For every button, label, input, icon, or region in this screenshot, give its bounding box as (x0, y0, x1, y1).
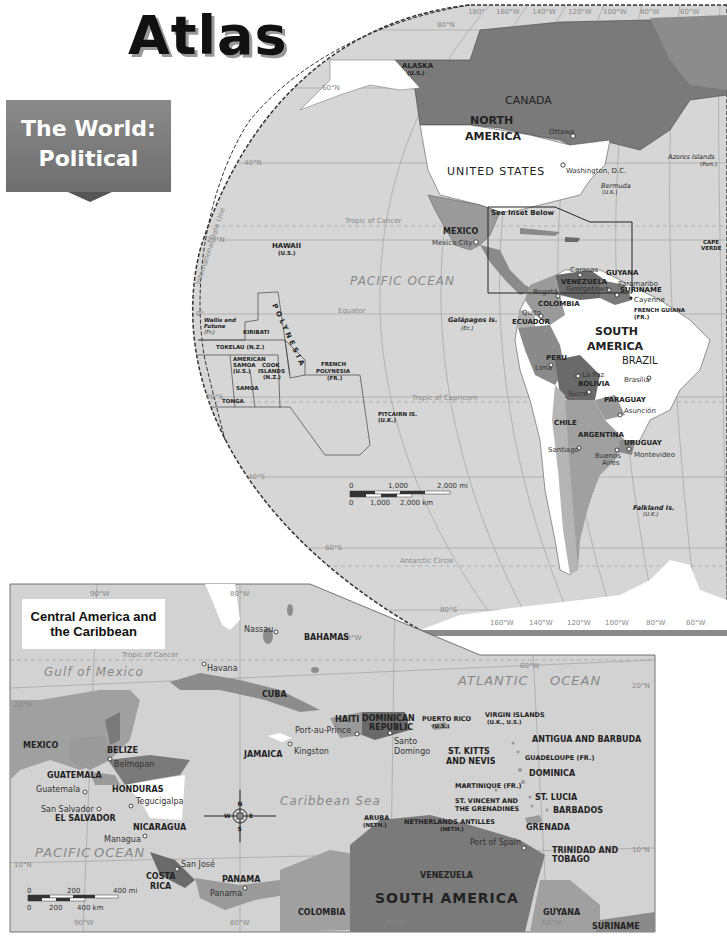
venezuela-inset-shape (350, 815, 545, 932)
svg-text:Havana: Havana (207, 664, 238, 673)
svg-text:San Salvador: San Salvador (41, 805, 94, 814)
svg-text:Tegucigalpa: Tegucigalpa (135, 797, 184, 806)
svg-text:400 km: 400 km (77, 904, 104, 912)
inset-country-labels: MEXICO BELIZE GUATEMALA HONDURAS EL SALV… (23, 633, 642, 931)
inset-lat-label: 10°N (632, 846, 650, 854)
lon-label-bottom: 100°W (605, 619, 629, 627)
lon-label: 100°W (603, 8, 627, 16)
inset-lat-label: 10°N (14, 861, 32, 869)
svg-text:E: E (249, 812, 253, 819)
svg-text:Guatemala: Guatemala (36, 785, 80, 794)
mexico-inset-shape (10, 690, 140, 780)
wallis-sub: (Fr.) (204, 329, 215, 335)
svg-text:1,000: 1,000 (388, 482, 408, 490)
inset-pacific-label: PACIFIC (35, 845, 91, 860)
french-polynesia-sub: (FR.) (327, 375, 343, 381)
north-america-label: AMERICA (465, 130, 522, 143)
lat-label: 20°S (206, 393, 223, 401)
hawaii-label: HAWAII (272, 242, 301, 250)
mexico-city-label: Mexico City (432, 239, 472, 247)
costa-rica-shape (150, 852, 195, 888)
inset-scale-bar: 0 200 400 mi 0 200 400 km (27, 887, 137, 912)
inset-lon-label: 60°W (520, 662, 539, 670)
inset-title-line-2: the Caribbean (22, 624, 165, 639)
inset-tropic-label: Tropic of Cancer (121, 651, 178, 659)
svg-text:COSTA: COSTA (146, 872, 176, 881)
la-paz-label: La Paz (582, 371, 605, 379)
lon-label: 120°W (568, 8, 592, 16)
svg-text:S: S (238, 825, 242, 832)
gulf-of-mexico-label: Gulf of Mexico (44, 665, 144, 679)
nicaragua-shape (125, 775, 185, 820)
montevideo-label: Montevideo (634, 451, 675, 459)
atlantic-label: ATLANTIC (457, 673, 529, 688)
svg-text:0: 0 (27, 887, 31, 895)
galapagos-sub: (Ec.) (461, 325, 474, 331)
brazil-label: BRAZIL (622, 355, 658, 366)
guatemala-shape (70, 735, 110, 770)
atlantic-label: OCEAN (550, 673, 601, 688)
argentina-label: ARGENTINA (578, 431, 624, 439)
asuncion-label: Asunción (624, 407, 656, 415)
world-map: 180° 160°W 140°W 120°W 100°W 80°W 60°W 8… (0, 0, 727, 640)
paraguay-label: PARAGUAY (604, 396, 647, 404)
svg-text:MEXICO: MEXICO (23, 741, 58, 750)
svg-text:DOMINICA: DOMINICA (529, 769, 576, 778)
tropic-capricorn-label: Tropic of Capricorn (411, 394, 477, 402)
santiago-label: Santiago (548, 446, 579, 454)
svg-text:PUERTO RICO: PUERTO RICO (422, 715, 472, 723)
brasilia-label: Brasília (624, 376, 650, 384)
svg-text:W: W (224, 812, 231, 819)
svg-text:TRINIDAD AND: TRINIDAD AND (552, 846, 618, 855)
svg-text:Domingo: Domingo (394, 747, 430, 756)
svg-text:EL SALVADOR: EL SALVADOR (55, 814, 116, 823)
dominican-shape (362, 712, 410, 740)
svg-text:(U.S.): (U.S.) (432, 723, 450, 729)
svg-text:DOMINICAN: DOMINICAN (362, 714, 415, 723)
american-samoa-sub: (U.S.) (233, 368, 251, 374)
svg-text:MARTINIQUE (FR.): MARTINIQUE (FR.) (455, 782, 521, 790)
washington-label: Washington, D.C. (566, 167, 626, 175)
svg-text:2,000 km: 2,000 km (400, 499, 433, 507)
azores-sub: (Port.) (700, 161, 717, 167)
ottawa-label: Ottawa (549, 128, 574, 136)
svg-text:400 mi: 400 mi (113, 887, 137, 895)
inset-lon-label: 60°W (542, 919, 561, 927)
colombia-inset-shape (280, 850, 360, 932)
svg-text:Port of Spain: Port of Spain (470, 838, 521, 847)
guyana-inset-shape (530, 880, 600, 932)
svg-text:HAITI: HAITI (335, 715, 359, 724)
paramaribo-label: Paramaribo (618, 280, 658, 288)
samoa-label: SAMOA (236, 385, 259, 391)
chile-label: CHILE (554, 419, 577, 427)
svg-text:THE GRENADINES: THE GRENADINES (455, 805, 520, 813)
lon-label-bottom: 120°W (567, 619, 591, 627)
svg-text:NICARAGUA: NICARAGUA (133, 823, 187, 832)
tropic-cancer-label: Tropic of Cancer (344, 217, 401, 225)
honduras-shape (108, 755, 190, 785)
el-salvador-shape (90, 772, 120, 785)
svg-text:REPUBLIC: REPUBLIC (369, 723, 413, 732)
jamaica-shape (268, 733, 292, 742)
lon-label-bottom: 140°W (529, 619, 553, 627)
inset-lon-label: 90°W (74, 919, 93, 927)
usa-label: UNITED STATES (447, 165, 545, 178)
south-america-label: AMERICA (587, 340, 644, 353)
lon-label-bottom: 80°W (646, 619, 665, 627)
uruguay-label: URUGUAY (624, 439, 663, 447)
georgetown-label: Georgetown (566, 285, 609, 293)
north-america-label: NORTH (470, 114, 513, 127)
canada-label: CANADA (505, 94, 552, 107)
buenos-aires-label: Aires (602, 459, 620, 467)
svg-text:Kingston: Kingston (294, 747, 329, 756)
svg-text:ST. VINCENT AND: ST. VINCENT AND (455, 797, 519, 805)
cuba-shape (170, 673, 320, 712)
lon-label-bottom: 160°W (490, 619, 514, 627)
svg-text:VIRGIN ISLANDS: VIRGIN ISLANDS (485, 711, 545, 719)
tokelau-label: TOKELAU (N.Z.) (216, 344, 265, 350)
svg-text:Port-au-Prince: Port-au-Prince (295, 726, 351, 735)
svg-text:ANTIGUA AND BARBUDA: ANTIGUA AND BARBUDA (532, 735, 642, 744)
inset-lat-label: 20°N (632, 682, 650, 690)
inset-cities: Nassau Havana Port-au-Prince Santo Domin… (36, 625, 526, 898)
bogota-label: Bogotá (533, 288, 558, 296)
